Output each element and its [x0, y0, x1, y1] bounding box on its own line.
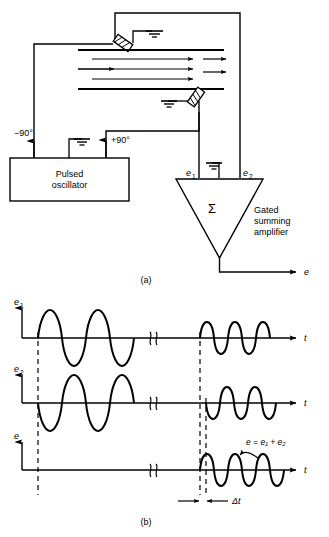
trace-e1: e 1 t [14, 297, 307, 366]
sum-annotation-arrow [240, 452, 258, 458]
ground-icon-top [133, 31, 163, 43]
delta-t-label: Δt [231, 496, 241, 506]
ground-icon-mid [161, 101, 189, 107]
input-label-e1: e 1 [186, 168, 196, 180]
e1-axis-label-sub: 1 [20, 302, 24, 309]
amplifier-label-line3: amplifier [254, 227, 288, 237]
delta-t-measure: Δt [178, 496, 241, 506]
oscillator-label-line2: oscillator [52, 180, 88, 190]
e2-time-axis-label: t [304, 398, 307, 408]
e2-axis-label-sub: 2 [20, 369, 24, 376]
e1-time-axis-label: t [304, 333, 307, 343]
amplifier-label-line2: summing [254, 216, 291, 226]
amplifier-label-line1: Gated [254, 205, 279, 215]
e2-axis-label: e [14, 364, 19, 374]
transducer-icon-bottom [187, 87, 204, 107]
caption-b: (b) [141, 517, 152, 527]
summing-amplifier-triangle [176, 179, 263, 258]
trace-e2: e 2 t [14, 364, 307, 431]
ground-icon-oscillator [69, 139, 90, 158]
e1-axis-label: e [14, 297, 19, 307]
wire-output [220, 258, 297, 272]
output-label-e: e [304, 267, 309, 277]
svg-text:e: e [243, 168, 248, 178]
sum-annotation-label: e = e₁ + e₂ [246, 437, 286, 447]
phase-plus90-label: +90° [111, 135, 130, 145]
schematic-diagram: −90° +90° Pulsed oscillator [10, 13, 309, 285]
oscillator-label-line1: Pulsed [56, 169, 84, 179]
e-time-axis-label: t [304, 465, 307, 475]
input-label-e2: e 2 [243, 168, 253, 180]
e-axis-label: e [14, 431, 19, 441]
waveform-diagram: e 1 t e 2 t [14, 297, 307, 527]
ground-icon-amplifier [206, 163, 222, 178]
wire-top-right-loop [115, 13, 240, 178]
wire-minus90-to-transducer [34, 44, 113, 158]
figure-svg: −90° +90° Pulsed oscillator [0, 0, 329, 537]
trace-e-sum: e t e = e₁ + e₂ [14, 431, 307, 486]
figure-root: −90° +90° Pulsed oscillator [0, 0, 329, 537]
caption-a: (a) [141, 275, 152, 285]
phase-minus90-label: −90° [14, 128, 33, 138]
svg-text:e: e [186, 168, 191, 178]
sigma-symbol: Σ [208, 201, 216, 216]
